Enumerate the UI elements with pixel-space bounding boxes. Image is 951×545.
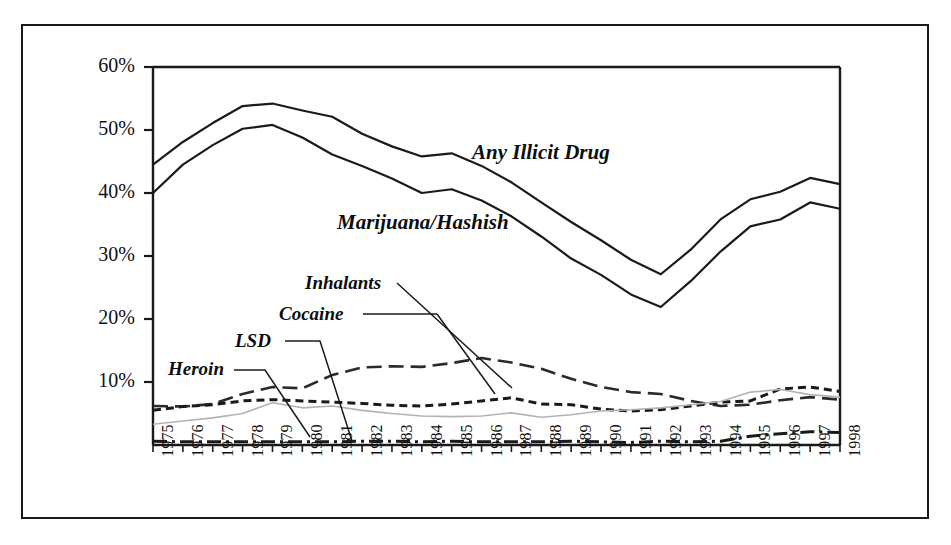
x-axis-label-1996: 1996 (786, 424, 804, 457)
x-axis-label-1981: 1981 (338, 424, 356, 457)
x-axis-label-1987: 1987 (517, 424, 535, 457)
series-label-heroin: Heroin (168, 358, 224, 380)
leader-line-cocaine2 (437, 314, 495, 394)
x-axis-label-1975: 1975 (159, 424, 177, 457)
x-axis-label-1977: 1977 (219, 424, 237, 457)
x-axis-label-1989: 1989 (577, 424, 595, 457)
annotation-leader-lines (234, 283, 512, 441)
series-label-marijuana-hashish: Marijuana/Hashish (337, 210, 509, 235)
x-axis-label-1983: 1983 (398, 424, 416, 457)
series-label-any-illicit-drug: Any Illicit Drug (472, 140, 610, 165)
x-axis-label-1998: 1998 (846, 424, 864, 457)
series-label-inhalants: Inhalants (305, 272, 381, 294)
x-axis-label-1990: 1990 (607, 424, 625, 457)
x-axis-label-1993: 1993 (697, 424, 715, 457)
series-label-lsd: LSD (235, 330, 271, 352)
leader-line-inhalants (397, 283, 512, 388)
line-chart-plot (0, 0, 951, 545)
chart-figure: 60%50%40%30%20%10% 197519761977197819791… (0, 0, 951, 545)
series-line-cocaine (153, 387, 840, 411)
x-axis-label-1976: 1976 (189, 424, 207, 457)
x-axis-label-1979: 1979 (278, 424, 296, 457)
x-axis-label-1991: 1991 (637, 424, 655, 457)
y-axis-label-40: 40% (73, 180, 135, 203)
x-axis-label-1980: 1980 (308, 424, 326, 457)
y-axis-label-30: 30% (73, 243, 135, 266)
x-axis-label-1997: 1997 (816, 424, 834, 457)
x-axis-label-1984: 1984 (428, 424, 446, 457)
x-axis-label-1986: 1986 (488, 424, 506, 457)
x-axis-label-1985: 1985 (458, 424, 476, 457)
chart-axes (144, 67, 840, 452)
y-axis-label-10: 10% (73, 369, 135, 392)
x-axis-label-1994: 1994 (727, 424, 745, 457)
x-axis-label-1992: 1992 (667, 424, 685, 457)
x-axis-label-1982: 1982 (368, 424, 386, 457)
series-line-lsd (153, 390, 840, 425)
x-axis-label-1988: 1988 (547, 424, 565, 457)
y-axis-label-60: 60% (73, 54, 135, 77)
series-line-any-illicit-drug (153, 104, 840, 275)
x-axis-label-1978: 1978 (249, 424, 267, 457)
series-label-cocaine: Cocaine (279, 303, 343, 325)
y-axis-label-50: 50% (73, 117, 135, 140)
x-axis-label-1995: 1995 (756, 424, 774, 457)
y-axis-label-20: 20% (73, 306, 135, 329)
